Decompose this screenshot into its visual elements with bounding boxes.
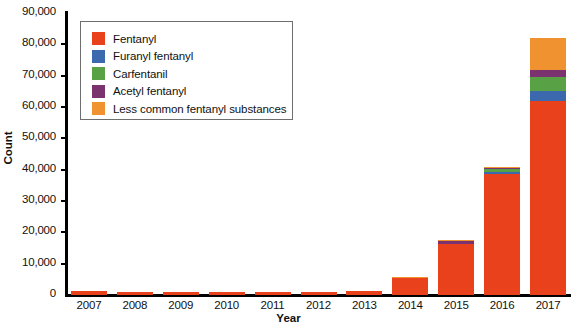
legend-item: Acetyl fentanyl <box>92 83 292 100</box>
bar-segment <box>438 244 474 295</box>
legend-swatch <box>92 85 105 98</box>
bar-segment <box>530 101 566 295</box>
bar <box>438 240 474 295</box>
bar-segment <box>163 292 199 295</box>
y-tick-mark <box>61 43 66 45</box>
x-tick-label: 2015 <box>431 299 481 311</box>
chart-figure: Count 010,00020,00030,00040,00050,00060,… <box>0 0 577 331</box>
bar-segment <box>209 292 245 295</box>
bar <box>209 292 245 295</box>
bar-segment <box>255 292 291 295</box>
y-tick-mark <box>61 263 66 265</box>
legend-label: Fentanyl <box>113 33 156 45</box>
y-axis-title: Count <box>2 131 14 164</box>
bar-segment <box>530 91 566 101</box>
bar-segment <box>530 38 566 70</box>
bar <box>255 292 291 295</box>
bar <box>117 292 153 295</box>
y-tick-mark <box>61 75 66 77</box>
x-tick-label: 2014 <box>385 299 435 311</box>
y-tick-mark <box>61 169 66 171</box>
x-tick-label: 2017 <box>523 299 573 311</box>
legend-label: Carfentanil <box>113 68 168 80</box>
y-tick-mark <box>61 231 66 233</box>
bar <box>530 38 566 295</box>
legend-item: Furanyl fentanyl <box>92 48 292 65</box>
bar <box>346 291 382 295</box>
legend-swatch <box>92 67 105 80</box>
y-tick-label: 0 <box>50 287 56 299</box>
y-tick-label: 60,000 <box>22 99 56 111</box>
legend-label: Furanyl fentanyl <box>113 50 193 62</box>
bar-segment <box>484 174 520 295</box>
bar-segment <box>71 291 107 295</box>
y-tick-mark <box>61 200 66 202</box>
x-tick-label: 2012 <box>294 299 344 311</box>
legend-swatch <box>92 32 105 45</box>
x-tick-label: 2009 <box>156 299 206 311</box>
x-tick-label: 2010 <box>202 299 252 311</box>
legend-item: Fentanyl <box>92 30 292 47</box>
y-tick-label: 40,000 <box>22 162 56 174</box>
bar-segment <box>117 292 153 295</box>
x-tick-label: 2007 <box>64 299 114 311</box>
y-tick-label: 90,000 <box>22 5 56 17</box>
bar <box>301 292 337 295</box>
y-tick-mark <box>61 137 66 139</box>
legend: FentanylFuranyl fentanylCarfentanilAcety… <box>80 21 293 120</box>
bar-segment <box>530 77 566 91</box>
bar <box>392 277 428 295</box>
bar <box>484 167 520 295</box>
y-tick-label: 30,000 <box>22 193 56 205</box>
bar-segment <box>346 291 382 295</box>
bar-segment <box>301 292 337 295</box>
legend-swatch <box>92 102 105 115</box>
legend-swatch <box>92 50 105 63</box>
y-tick-label: 50,000 <box>22 130 56 142</box>
y-tick-label: 10,000 <box>22 256 56 268</box>
x-tick-label: 2013 <box>339 299 389 311</box>
legend-item: Less common fentanyl substances <box>92 100 292 117</box>
bar-segment <box>392 278 428 295</box>
bar <box>163 292 199 295</box>
x-tick-label: 2011 <box>248 299 298 311</box>
x-tick-label: 2016 <box>477 299 527 311</box>
x-tick-label: 2008 <box>110 299 160 311</box>
legend-label: Acetyl fentanyl <box>113 85 186 97</box>
y-tick-label: 80,000 <box>22 36 56 48</box>
legend-items: FentanylFuranyl fentanylCarfentanilAcety… <box>92 30 292 117</box>
bar <box>71 291 107 295</box>
y-tick-label: 20,000 <box>22 224 56 236</box>
y-tick-mark <box>61 106 66 108</box>
legend-label: Less common fentanyl substances <box>113 103 286 115</box>
legend-item: Carfentanil <box>92 65 292 82</box>
y-tick-label: 70,000 <box>22 68 56 80</box>
x-axis-title: Year <box>0 312 577 324</box>
